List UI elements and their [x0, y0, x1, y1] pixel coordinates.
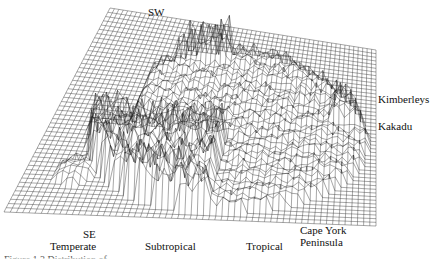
label-kimberleys: Kimberleys — [378, 93, 429, 105]
label-tropical: Tropical — [246, 240, 283, 252]
label-temperate: Temperate — [50, 240, 96, 252]
label-kakadu: Kakadu — [378, 120, 412, 132]
wireframe-surface — [0, 0, 433, 260]
label-sw: SW — [148, 6, 165, 18]
label-cape-york: Cape York — [300, 224, 346, 236]
label-subtropical: Subtropical — [145, 240, 196, 252]
mesh-lines — [4, 8, 376, 226]
wireframe-figure: SW Kimberleys Kakadu SE Temperate Subtro… — [0, 0, 433, 260]
label-se: SE — [83, 228, 96, 240]
label-peninsula: Peninsula — [300, 236, 343, 248]
